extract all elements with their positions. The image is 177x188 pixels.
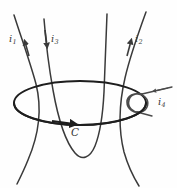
label-current-i4: i4	[158, 97, 165, 107]
label-current-i3: i3	[51, 34, 58, 44]
label-i3-subscript: 3	[54, 38, 58, 46]
label-current-i2: i2	[135, 34, 142, 44]
label-current-i1: i1	[9, 34, 16, 44]
wire-i2-current-arrow	[127, 41, 131, 56]
figure-drawing	[0, 0, 177, 188]
label-i2-subscript: 2	[138, 38, 142, 46]
ampere-law-figure: i1 i3 i2 i4 C	[0, 0, 177, 188]
label-i1-subscript: 1	[12, 38, 16, 46]
wire-i3-current-arrow	[45, 30, 47, 46]
wire-i1	[14, 15, 39, 184]
amperian-loop-front-arc	[14, 103, 146, 125]
label-i4-subscript: 4	[161, 101, 165, 109]
label-loop-c: C	[71, 127, 79, 138]
